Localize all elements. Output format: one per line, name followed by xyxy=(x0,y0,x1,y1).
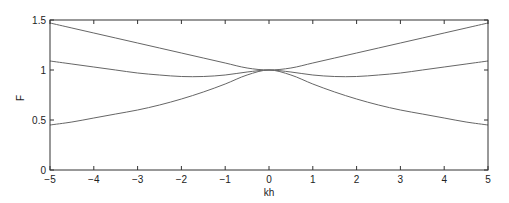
y-tick-label: 1 xyxy=(40,65,46,76)
x-tick-label: −3 xyxy=(132,174,144,185)
x-tick-label: 4 xyxy=(441,174,447,185)
plot-frame xyxy=(50,20,488,170)
x-tick-label: −2 xyxy=(176,174,188,185)
x-tick-label: 0 xyxy=(266,174,272,185)
series-line-middle xyxy=(50,61,488,77)
y-tick-label: 0.5 xyxy=(32,115,46,126)
x-tick-label: 5 xyxy=(485,174,491,185)
y-tick-label: 0 xyxy=(40,165,46,176)
x-axis-label: kh xyxy=(264,187,275,198)
x-tick-label: 2 xyxy=(354,174,360,185)
x-tick-label: −1 xyxy=(219,174,231,185)
x-tick-label: −4 xyxy=(88,174,100,185)
series-line-lower xyxy=(50,70,488,125)
y-tick-label: 1.5 xyxy=(32,15,46,26)
x-tick-label: 3 xyxy=(398,174,404,185)
line-chart: −5−4−3−2−101234500.511.5khF xyxy=(0,0,509,203)
x-tick-label: 1 xyxy=(310,174,316,185)
series-line-upper xyxy=(50,23,488,70)
y-axis-label: F xyxy=(15,95,26,101)
x-tick-label: −5 xyxy=(44,174,56,185)
